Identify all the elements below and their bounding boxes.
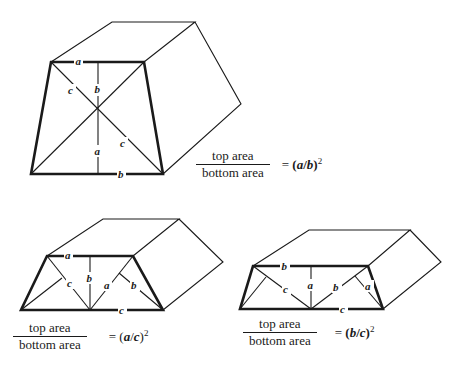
br-label-top-edge: b [282,260,288,272]
diagram-canvas: a b c c a b a b c a b c [0,0,461,365]
fraction-denominator: bottom area [196,164,270,180]
bl-label-right-diag: a [104,279,110,291]
bl-label-top-edge: a [65,249,71,261]
bl-label-right-perp: b [131,279,137,291]
area-fraction: top area bottom area [196,149,270,180]
fraction-denominator: bottom area [13,336,87,352]
bl-left-inner [21,278,62,310]
br-label-bottom-edge: c [340,303,345,315]
area-fraction: top area bottom area [243,317,317,348]
br-prism-top-face [253,230,410,266]
top-prism-top-face [51,22,195,62]
br-label-left-diag: c [283,283,288,295]
bl-label-vertical: b [87,272,93,284]
br-prism-side-face [383,230,441,309]
fraction-denominator: bottom area [243,332,317,348]
fraction-numerator: top area [206,149,260,164]
bl-label-bottom-edge: c [119,304,124,316]
top-label-bottom-edge: b [118,168,124,180]
bl-label-left-perp: c [67,277,72,289]
fraction-numerator: top area [23,321,77,336]
ratio-expression: = (a/c)2 [109,328,149,345]
top-label-top-edge: a [76,55,82,67]
ratio-expression: = (a/b)2 [282,156,322,173]
figure-bottom-left: a b c a b c [21,219,223,316]
top-label-upper-vertical: b [95,83,101,95]
fraction-numerator: top area [253,317,307,332]
br-label-right-diag: b [333,281,339,293]
top-label-lower-diagonal: c [120,137,125,149]
top-label-upper-diagonal: c [68,84,73,96]
formula-top: top area bottom area = (a/b)2 [196,149,322,180]
area-fraction: top area bottom area [13,321,87,352]
top-label-lower-vertical: a [95,145,101,157]
top-trapezoid [31,62,163,174]
ratio-expression: = (b/c)2 [335,324,375,341]
formula-bottom-left: top area bottom area = (a/c)2 [13,321,148,352]
formula-bottom-right: top area bottom area = (b/c)2 [243,317,374,348]
figure-bottom-right: b c a b a c [240,230,441,315]
br-label-right-perp: a [365,280,371,292]
bl-prism-side-face [163,219,223,310]
br-label-vertical: a [308,279,314,291]
